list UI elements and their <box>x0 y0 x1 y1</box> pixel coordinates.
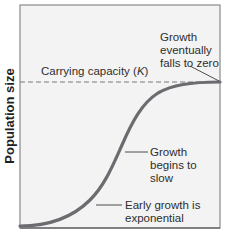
slow-annotation: Growth begins to slow <box>150 146 197 185</box>
plateau-line-2: eventually <box>160 44 219 57</box>
early-line-2: exponential <box>125 212 200 225</box>
early-annotation: Early growth is exponential <box>125 199 200 225</box>
plateau-line-1: Growth <box>160 31 219 44</box>
k-label-prefix: Carrying capacity ( <box>41 65 137 77</box>
k-label-suffix: ) <box>145 65 149 77</box>
slow-line-1: Growth <box>150 146 197 159</box>
plateau-annotation: Growth eventually falls to zero <box>160 31 219 70</box>
early-line-1: Early growth is <box>125 199 200 212</box>
slow-line-3: slow <box>150 172 197 185</box>
k-symbol: K <box>137 65 145 77</box>
plateau-line-3: falls to zero <box>160 57 219 70</box>
slow-line-2: begins to <box>150 159 197 172</box>
carrying-capacity-label: Carrying capacity (K) <box>41 65 148 78</box>
y-axis-label: Population size <box>2 66 18 166</box>
